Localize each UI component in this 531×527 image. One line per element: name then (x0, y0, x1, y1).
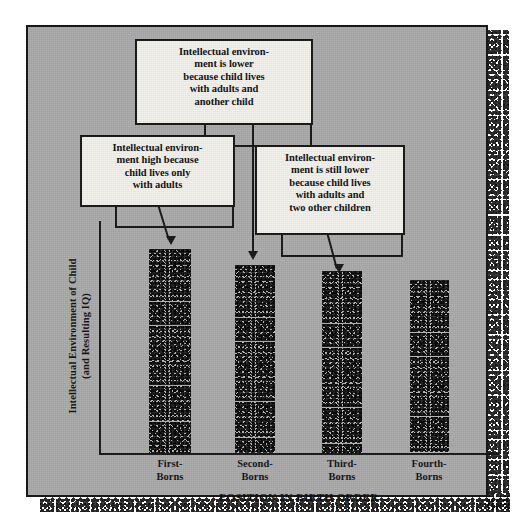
x-axis-line (99, 453, 499, 455)
y-axis-line (99, 221, 101, 455)
connector-third-borns-h-bottom (281, 255, 403, 257)
connector-second-borns-stem (252, 125, 254, 253)
callout-third-borns: Intellectual environ- ment is still lowe… (255, 145, 405, 235)
bar-second-borns (235, 265, 275, 453)
callout-second-borns: Intellectual environ- ment is lower beca… (135, 39, 313, 125)
connector-first-borns-h-bottom (115, 226, 234, 228)
x-tick-label-third-borns: Third- Borns (296, 458, 388, 483)
x-tick-label-fourth-borns: Fourth- Borns (383, 458, 475, 483)
chart-panel: Intellectual Environment of Child (and R… (26, 25, 488, 497)
bar-first-borns (149, 249, 191, 453)
x-axis-title: POSITION IN BIRTH ORDER (99, 491, 499, 503)
y-axis-title: Intellectual Environment of Child (and R… (66, 231, 92, 441)
arrowhead-first-borns (166, 236, 176, 245)
connector-first-borns-v-left (115, 207, 117, 228)
arrowhead-second-borns (248, 251, 258, 260)
panel-shadow-right (487, 30, 509, 510)
arrowhead-third-borns (334, 264, 344, 273)
x-tick-label-second-borns: Second- Borns (209, 458, 301, 483)
figure-container: Intellectual Environment of Child (and R… (0, 0, 531, 527)
x-tick-label-first-borns: First- Borns (124, 458, 216, 483)
connector-third-borns-v-left (281, 235, 283, 257)
callout-first-borns: Intellectual environ- ment high because … (80, 135, 235, 207)
bar-third-borns (322, 271, 362, 453)
bar-fourth-borns (410, 280, 449, 453)
